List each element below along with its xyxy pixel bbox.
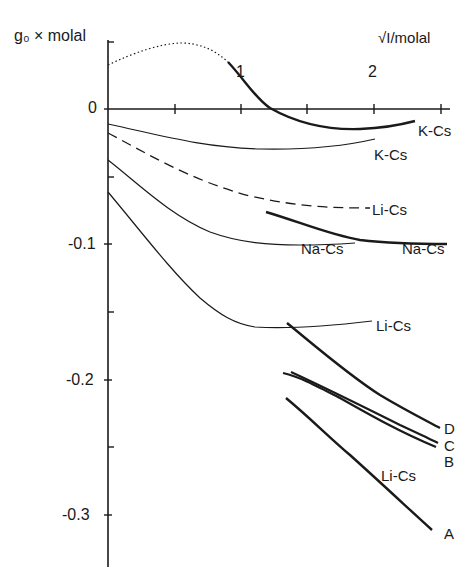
y-tick-label-minus-0.3: -0.3 <box>62 507 90 523</box>
lics-thin-curve <box>108 192 372 328</box>
y-ticks <box>104 42 114 515</box>
label-c: C <box>444 438 455 453</box>
label-kcs-thick: K-Cs <box>418 123 451 138</box>
label-kcs-thin: K-Cs <box>374 147 407 162</box>
label-b: B <box>444 454 454 469</box>
chart-plot-area <box>0 0 475 583</box>
label-lics-dashed: Li-Cs <box>372 202 407 217</box>
kcs-dotted-curve <box>108 43 228 65</box>
curve-a <box>286 398 432 530</box>
x-tick-label-2: 2 <box>368 64 377 80</box>
nacs-thin-curve <box>108 160 355 245</box>
y-tick-label-minus-0.1: -0.1 <box>68 236 96 252</box>
y-tick-label-0: 0 <box>88 100 97 116</box>
y-axis-label: g₀ × molal <box>14 28 86 44</box>
y-tick-label-minus-0.2: -0.2 <box>66 372 94 388</box>
label-lics-thin: Li-Cs <box>376 318 411 333</box>
label-lics-a: Li-Cs <box>381 468 416 483</box>
label-a: A <box>444 526 454 541</box>
label-d: D <box>444 421 455 436</box>
curve-b <box>283 373 436 447</box>
label-nacs-thin: Na-Cs <box>301 241 344 256</box>
x-axis-label: √I/molal <box>378 30 430 45</box>
curve-c <box>291 372 438 443</box>
kcs-thick-curve <box>228 62 415 129</box>
x-tick-label-1: 1 <box>236 64 245 80</box>
label-nacs-thick: Na-Cs <box>402 241 445 256</box>
lics-dashed-curve <box>108 133 370 208</box>
